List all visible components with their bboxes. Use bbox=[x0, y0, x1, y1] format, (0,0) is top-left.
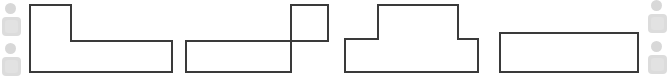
t-shape-plateau[interactable] bbox=[345, 5, 478, 72]
deco-tile-4 bbox=[648, 55, 667, 74]
deco-tile-3-inner bbox=[651, 17, 664, 30]
right-decoration-column bbox=[644, 0, 668, 80]
deco-tile-4-inner bbox=[651, 58, 664, 71]
l-shape-right-riser[interactable] bbox=[186, 5, 328, 72]
rectangle-bar[interactable] bbox=[500, 33, 638, 72]
l-shape-left-riser[interactable] bbox=[30, 5, 172, 72]
deco-dot-3 bbox=[651, 0, 662, 11]
polygon-shape-layer bbox=[0, 0, 668, 80]
deco-dot-4 bbox=[651, 41, 662, 52]
shape-canvas bbox=[0, 0, 668, 80]
deco-tile-3 bbox=[648, 14, 667, 33]
